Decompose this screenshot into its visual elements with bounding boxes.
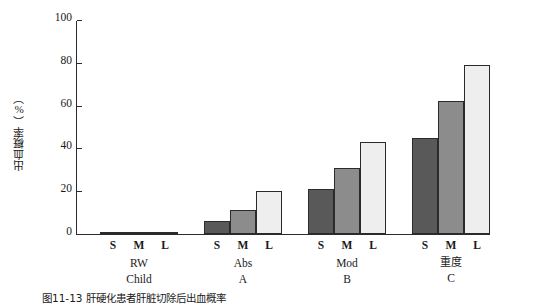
y-axis-tick: 40 (77, 148, 82, 149)
y-axis-tick-label: 80 (61, 55, 73, 67)
bar (204, 221, 230, 234)
x-tick-label-s: S (308, 240, 334, 252)
bar (412, 138, 438, 234)
group-label-secondary: A (188, 272, 298, 288)
y-axis-tick-label: 100 (55, 12, 72, 24)
bar (100, 232, 126, 234)
figure-bar-chart: 出血概率（%） 020406080100 SMLSMLSMLSML RWChil… (0, 0, 533, 304)
plot-area: 020406080100 (76, 21, 490, 235)
x-tick-label-l: L (464, 240, 490, 252)
y-axis-tick-label: 40 (61, 140, 73, 152)
y-axis-tick-label: 0 (66, 226, 72, 238)
bar (256, 191, 282, 234)
bar (230, 210, 256, 234)
x-tick-label-l: L (256, 240, 282, 252)
y-axis-tick-label: 20 (61, 183, 73, 195)
y-axis-tick: 100 (77, 20, 82, 21)
x-axis-line (76, 234, 490, 235)
x-tick-label-s: S (204, 240, 230, 252)
group-label: ModB (292, 256, 402, 287)
y-axis-tick: 60 (77, 106, 82, 107)
y-axis-tick: 80 (77, 63, 82, 64)
x-tick-label-m: M (334, 240, 360, 252)
x-tick-label-l: L (152, 240, 178, 252)
y-axis-tick: 20 (77, 191, 82, 192)
bar (464, 65, 490, 234)
x-tick-label-l: L (360, 240, 386, 252)
group-label-secondary: C (396, 271, 506, 287)
group-label: AbsA (188, 256, 298, 287)
group-label: RWChild (84, 256, 194, 287)
y-axis-line (76, 21, 77, 235)
group-label: 重度C (396, 256, 506, 286)
x-tick-label-m: M (438, 240, 464, 252)
group-label-primary: Mod (292, 256, 402, 272)
x-tick-label-s: S (100, 240, 126, 252)
y-axis-label: 出血概率（%） (8, 72, 32, 192)
x-tick-label-m: M (126, 240, 152, 252)
figure-caption: 图11-13 肝硬化患者肝脏切除后出血概率 (42, 292, 512, 304)
bar (438, 101, 464, 234)
group-label-secondary: B (292, 272, 402, 288)
bar (126, 232, 152, 234)
y-axis-tick-label: 60 (61, 98, 73, 110)
bar (152, 232, 178, 234)
bar (360, 142, 386, 234)
x-tick-label-m: M (230, 240, 256, 252)
x-tick-label-s: S (412, 240, 438, 252)
group-label-primary: 重度 (396, 256, 506, 271)
group-label-primary: RW (84, 256, 194, 272)
group-label-secondary: Child (84, 272, 194, 288)
group-label-primary: Abs (188, 256, 298, 272)
bar (308, 189, 334, 234)
bar (334, 168, 360, 234)
y-axis-tick: 0 (77, 234, 82, 235)
